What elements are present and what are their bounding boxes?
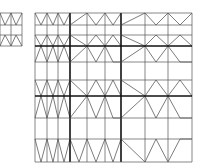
zigzag-line: [35, 139, 70, 162]
large-grid: [35, 13, 192, 162]
zigzag-line: [121, 46, 192, 62]
zigzag-line: [121, 139, 192, 162]
zigzag-line: [70, 46, 121, 62]
zigzag-line: [121, 96, 192, 118]
zigzag-line: [35, 80, 70, 96]
zigzag-line: [70, 80, 121, 96]
zigzag-line: [35, 46, 70, 62]
zigzag-line: [121, 80, 192, 96]
zigzag-line: [70, 35, 121, 46]
zigzag-line: [70, 13, 121, 25]
zigzag-line: [35, 13, 70, 25]
zigzag-line: [121, 13, 192, 25]
small-grid: [0, 13, 22, 46]
zigzag-line: [35, 35, 70, 46]
zigzag-line: [70, 139, 121, 162]
zigzag-line: [121, 35, 192, 46]
tiling-diagram: [0, 0, 199, 168]
zigzag-line: [70, 96, 121, 118]
zigzag-line: [35, 96, 70, 118]
